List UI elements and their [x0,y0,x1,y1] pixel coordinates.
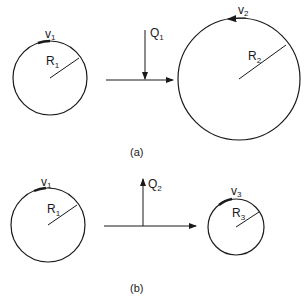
q2-label: Q2 [148,177,162,193]
panel-a: v1 R1 Q1 v2 R2 (a) [13,3,300,158]
velocity-arrow-icon [219,199,232,205]
process-arrow-a: Q1 [106,26,173,80]
r2-label: R2 [248,49,262,65]
caption-a: (a) [130,146,143,158]
circle-r3: v3 R3 [208,184,264,255]
circle-r1-b: v1 R1 [11,175,85,262]
r3-label: R3 [232,206,246,222]
panel-b: v1 R1 Q2 v3 R3 (b) [11,175,264,294]
caption-b: (b) [130,282,143,294]
q1-label: Q1 [150,26,164,42]
v2-label: v2 [238,3,249,18]
v1-label: v1 [45,27,56,42]
velocity-arrow-icon [38,41,50,43]
r1-label-b: R1 [47,202,61,218]
circle-r2: v2 R2 [178,3,300,140]
v1-label-b: v1 [41,175,52,190]
diagram-canvas: v1 R1 Q1 v2 R2 (a) v1 R1 Q2 [0,0,305,301]
circle-r1-a: v1 R1 [13,27,87,115]
r1-label: R1 [46,54,60,70]
v3-label: v3 [231,184,242,199]
process-arrow-b: Q2 [104,177,196,226]
